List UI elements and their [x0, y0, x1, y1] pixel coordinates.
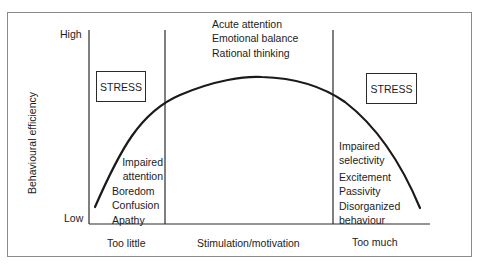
y-axis-label: Behavioural efficiency	[26, 92, 38, 194]
high-zone-line: Excitement	[339, 170, 400, 184]
low-zone-line: Confusion	[112, 198, 159, 212]
high-zone-line: Disorganized	[339, 199, 400, 213]
high-zone-text: Impaired selectivity Excitement Passivit…	[339, 139, 400, 227]
low-zone-text: Boredom Confusion Apathy	[112, 184, 159, 227]
high-zone-line: behaviour	[339, 213, 400, 227]
optimal-line: Acute attention	[212, 17, 298, 31]
x-label-stimulation: Stimulation/motivation	[197, 236, 300, 250]
stress-box-right: STRESS	[366, 73, 417, 104]
optimal-line: Rational thinking	[212, 46, 298, 60]
x-label-too-little: Too little	[107, 236, 146, 250]
stress-box-left: STRESS	[96, 71, 146, 102]
high-zone-line: Impaired	[339, 139, 400, 153]
low-zone-impaired-text: Impaired attention	[112, 155, 163, 184]
high-zone-line: selectivity	[339, 153, 400, 167]
optimal-zone-text: Acute attention Emotional balance Ration…	[212, 17, 298, 60]
low-zone-line: Apathy	[112, 213, 159, 227]
y-axis-high-label: High	[60, 27, 82, 41]
high-zone-line: Passivity	[339, 184, 400, 198]
low-zone-line: Impaired	[112, 155, 163, 169]
optimal-line: Emotional balance	[212, 31, 298, 45]
x-label-too-much: Too much	[352, 235, 398, 249]
y-axis-low-label: Low	[64, 211, 83, 225]
low-zone-line: attention	[112, 169, 163, 183]
low-zone-line: Boredom	[112, 184, 159, 198]
